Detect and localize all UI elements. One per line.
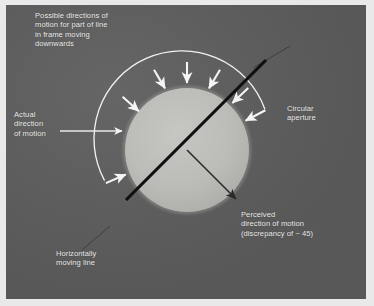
circular-aperture-leader [253, 46, 290, 68]
possible-arrow-1 [106, 175, 126, 184]
label-circular-aperture: Circular aperture [287, 104, 316, 123]
label-perceived-direction: Perceived direction of motion (discrepan… [241, 210, 313, 238]
possible-arrow-5 [209, 70, 220, 89]
possible-arrow-2 [123, 97, 139, 112]
possible-arrow-3 [154, 70, 165, 89]
figure-root: Possible directions of motion for part o… [0, 0, 374, 306]
label-horizontally-moving-line: Horizontally moving line [56, 249, 96, 268]
possible-arrow-7 [246, 110, 266, 121]
label-actual-direction: Actual direction of motion [14, 110, 46, 138]
horizontal-line-leader [82, 226, 110, 250]
label-possible-directions: Possible directions of motion for part o… [35, 11, 108, 48]
